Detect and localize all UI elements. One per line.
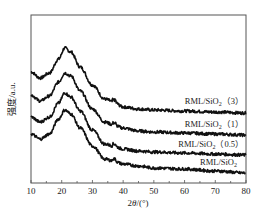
x-tick-label: 70	[211, 186, 221, 196]
x-tick-label: 20	[57, 186, 67, 196]
x-tick-label: 40	[119, 186, 129, 196]
x-axis-tick-labels: 1020304050607080	[27, 186, 252, 196]
y-axis-title: 强度/a.u.	[6, 82, 17, 116]
xrd-chart: 1020304050607080 RML/SiO2（3）RML/SiO2（1）R…	[0, 0, 263, 219]
x-axis-title: 2θ/(°)	[127, 198, 148, 208]
x-tick-label: 50	[149, 186, 159, 196]
x-tick-label: 30	[88, 186, 98, 196]
x-tick-label: 60	[180, 186, 190, 196]
series-lines	[31, 47, 246, 174]
series-label: RML/SiO2（1）	[185, 119, 244, 130]
x-tick-label: 10	[27, 186, 37, 196]
x-tick-label: 80	[242, 186, 252, 196]
series-label: RML/SiO2（0.5）	[178, 139, 244, 150]
series-label: RML/SiO2	[200, 157, 237, 168]
series-label: RML/SiO2（3）	[185, 96, 244, 107]
